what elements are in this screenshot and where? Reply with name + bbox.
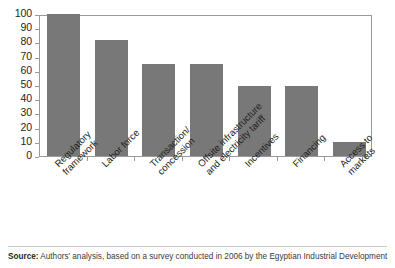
source-note: Source: Authors’ analysis, based on a su… — [8, 252, 392, 262]
y-axis-tick-label: 60 — [21, 65, 32, 76]
y-axis-tick-label: 90 — [21, 22, 32, 33]
y-axis-tick-label: 50 — [21, 79, 32, 90]
divider — [8, 246, 387, 247]
y-axis-tick-label: 70 — [21, 51, 32, 62]
x-axis-labels: RegulatoryframeworkLabor forceTransactio… — [0, 160, 395, 244]
y-axis: 0102030405060708090100 — [0, 15, 39, 157]
y-axis-tick-label: 30 — [21, 107, 32, 118]
y-axis-tick-label: 10 — [21, 136, 32, 147]
source-label: Source: — [8, 252, 38, 261]
y-axis-tick-label: 80 — [21, 36, 32, 47]
bar — [47, 14, 80, 156]
chart-figure: 0102030405060708090100 Regulatoryframewo… — [0, 0, 395, 268]
source-text: Authors’ analysis, based on a survey con… — [38, 252, 387, 261]
y-axis-tick-label: 20 — [21, 122, 32, 133]
y-axis-tick-label: 0 — [26, 150, 32, 161]
y-axis-tick-label: 40 — [21, 93, 32, 104]
y-axis-tick-label: 100 — [15, 8, 32, 19]
